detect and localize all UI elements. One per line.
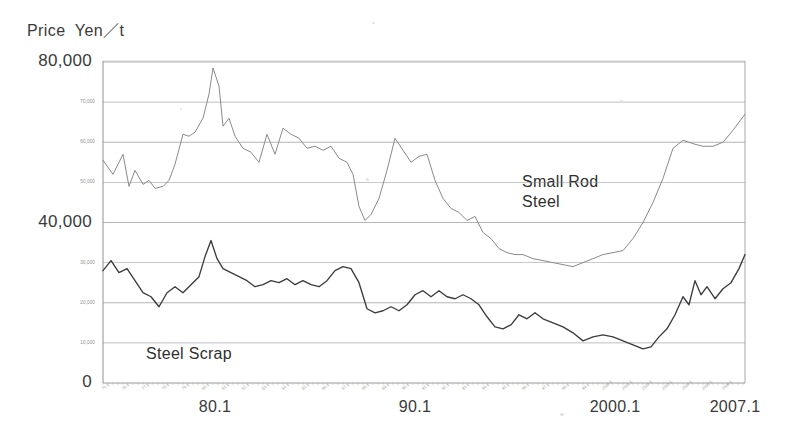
series-line-small-rod-steel xyxy=(103,68,745,267)
scan-speck xyxy=(560,413,564,416)
scan-speck xyxy=(620,100,623,102)
scan-speck xyxy=(372,22,375,24)
series-line-steel-scrap xyxy=(103,241,745,349)
series-lines xyxy=(103,68,745,349)
plot-svg xyxy=(0,0,793,430)
gridlines xyxy=(103,62,745,343)
scan-speck xyxy=(366,178,369,181)
chart-container: Price Yen／t 80,000 40,000 0 70,000 60,00… xyxy=(0,0,793,430)
scan-speck xyxy=(80,300,82,302)
scan-speck xyxy=(180,108,182,110)
axis-lines xyxy=(103,61,745,383)
